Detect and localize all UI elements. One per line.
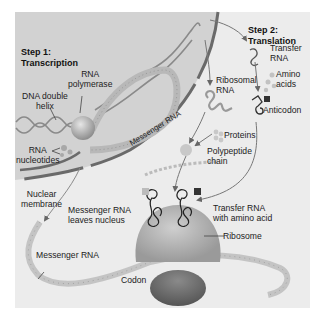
label-line: RNA <box>270 54 302 64</box>
step1-heading: Step 1: Transcription <box>21 47 78 68</box>
label-messenger-rna: Messenger RNA <box>36 251 99 261</box>
polypeptide-knob <box>180 144 192 156</box>
step2-line1: Step 2: <box>248 25 296 36</box>
label-polypeptide-chain: Polypeptide chain <box>207 147 252 166</box>
label-line: membrane <box>21 200 62 210</box>
proteins <box>214 130 224 143</box>
label-anticodon: Anticodon <box>263 106 301 116</box>
label-line: RNA <box>216 86 257 96</box>
label-proteins: Proteins <box>224 131 256 141</box>
label-amino-acids: Amino acids <box>276 70 300 89</box>
label-trna-with-amino-acid: Transfer RNA with amino acid <box>213 204 272 223</box>
label-ribosomal-rna: Ribosomal RNA <box>216 76 257 95</box>
label-mrna-leaves-nucleus: Messenger RNA leaves nucleus <box>68 206 131 225</box>
step1-line1: Step 1: <box>21 47 78 58</box>
label-line: helix <box>22 102 68 112</box>
label-rna-polymerase: RNA polymerase <box>68 70 112 89</box>
label-dna-helix: DNA double helix <box>22 92 68 111</box>
label-codon: Codon <box>121 276 146 286</box>
label-line: acids <box>276 80 300 90</box>
label-line: polymerase <box>68 80 112 90</box>
label-line: chain <box>207 157 252 167</box>
label-line: nucleotides <box>16 156 59 166</box>
amino-acids <box>264 73 277 93</box>
transfer-rna <box>250 49 258 65</box>
label-ribosome: Ribosome <box>223 232 262 242</box>
step1-line2: Transcription <box>21 58 78 69</box>
label-transfer-rna: Transfer RNA <box>270 44 302 63</box>
amino-acid-square-dark <box>194 188 201 195</box>
label-line: leaves nucleus <box>68 216 131 226</box>
rna-polymerase <box>71 116 95 140</box>
label-rna-nucleotides: RNA nucleotides <box>16 146 59 165</box>
label-nuclear-membrane: Nuclear membrane <box>21 190 62 209</box>
label-line: with amino acid <box>213 214 272 224</box>
amino-acid-square <box>142 188 149 195</box>
